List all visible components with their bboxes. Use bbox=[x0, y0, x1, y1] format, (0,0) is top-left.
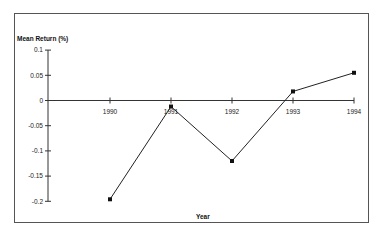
data-point-marker bbox=[108, 197, 112, 201]
line-plot: 0.10.050-0.05-0.1-0.15-0.219901991199219… bbox=[0, 0, 381, 234]
y-tick-label: 0 bbox=[39, 97, 43, 104]
series-line bbox=[110, 73, 354, 200]
y-tick-label: -0.05 bbox=[28, 122, 43, 129]
data-point-marker bbox=[291, 89, 295, 93]
data-point-marker bbox=[169, 105, 173, 109]
y-tick-label: -0.1 bbox=[32, 147, 44, 154]
x-tick-label: 1992 bbox=[225, 108, 240, 115]
data-point-marker bbox=[352, 71, 356, 75]
x-tick-label: 1990 bbox=[103, 108, 118, 115]
x-tick-label: 1993 bbox=[286, 108, 301, 115]
y-tick-label: 0.1 bbox=[34, 46, 43, 53]
y-tick-label: -0.2 bbox=[32, 198, 44, 205]
y-tick-label: -0.15 bbox=[28, 172, 43, 179]
data-point-marker bbox=[230, 159, 234, 163]
x-tick-label: 1994 bbox=[347, 108, 362, 115]
y-tick-label: 0.05 bbox=[30, 72, 43, 79]
